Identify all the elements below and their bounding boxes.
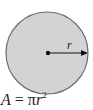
formula-lhs: A bbox=[1, 91, 11, 108]
formula-equals: = bbox=[15, 91, 24, 108]
radius-label: r bbox=[67, 38, 72, 52]
formula-pi: π bbox=[28, 91, 36, 108]
formula-exponent: 2 bbox=[42, 90, 47, 100]
area-formula: A = πr2 bbox=[1, 92, 47, 108]
